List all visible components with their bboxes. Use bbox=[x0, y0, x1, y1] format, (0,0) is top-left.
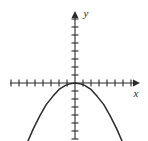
figure-root: x y bbox=[0, 0, 148, 141]
figure-background bbox=[0, 0, 148, 141]
y-axis-label: y bbox=[83, 7, 89, 19]
x-axis-label: x bbox=[133, 87, 139, 99]
coordinate-plane-graph: x y bbox=[0, 0, 148, 141]
